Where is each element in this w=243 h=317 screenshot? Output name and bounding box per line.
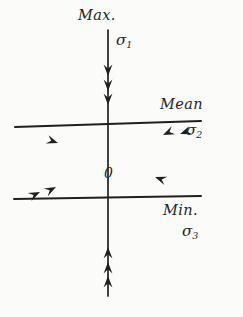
- sigma3-glyph: σ: [182, 222, 192, 240]
- sigma3-subscript: 3: [192, 230, 198, 241]
- sigma1-subscript: 1: [126, 39, 132, 50]
- axis-label-sigma1-symbol: σ1: [116, 33, 132, 49]
- axis-label-sigma2-name: Mean: [160, 97, 203, 112]
- arrowhead-sigma2-left-1: [46, 135, 60, 147]
- axis-label-sigma3-symbol: σ3: [182, 224, 198, 240]
- stress-axes-figure: Max. σ1 Mean σ2 Min. σ3 0: [0, 0, 243, 317]
- arrowhead-sigma3-right-1: [154, 173, 168, 185]
- axis-label-sigma2-symbol: σ2: [186, 123, 202, 139]
- sigma2-glyph: σ: [186, 121, 196, 139]
- origin-label: 0: [104, 166, 113, 180]
- arrowhead-sigma2-right-1: [161, 126, 175, 139]
- axis-label-sigma3-name: Min.: [163, 203, 198, 218]
- arrowhead-sigma3-left-2: [44, 183, 58, 196]
- sigma2-subscript: 2: [196, 129, 202, 140]
- sigma1-glyph: σ: [116, 31, 126, 49]
- axis-label-sigma1-name: Max.: [78, 8, 116, 23]
